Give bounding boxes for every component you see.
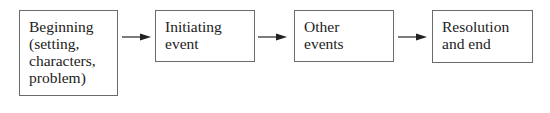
node-beginning: Beginning (setting, characters, problem) [19, 10, 118, 96]
node-resolution-line-1: Resolution [442, 18, 532, 35]
node-beginning-line-1: Beginning [29, 18, 117, 35]
node-initiating-event: Initiating event [155, 10, 255, 62]
node-resolution-line-2: and end [442, 35, 532, 52]
node-beginning-line-4: problem) [29, 69, 117, 86]
node-other-events: Other events [294, 10, 394, 62]
node-resolution-and-end: Resolution and end [432, 10, 533, 63]
node-beginning-line-2: (setting, [29, 35, 117, 52]
node-other-line-1: Other [304, 18, 393, 35]
arrow-right-icon [122, 32, 151, 42]
arrow-right-icon [398, 32, 427, 42]
arrow-right-icon [258, 32, 287, 42]
node-beginning-line-3: characters, [29, 52, 117, 69]
node-initiating-line-1: Initiating [165, 18, 254, 35]
node-initiating-line-2: event [165, 35, 254, 52]
node-other-line-2: events [304, 35, 393, 52]
